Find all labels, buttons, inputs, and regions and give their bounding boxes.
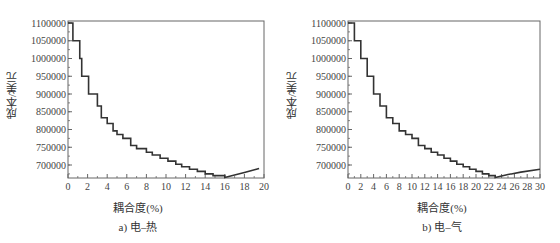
y-tick-label: 1100000 xyxy=(311,18,346,29)
x-tick-label: 0 xyxy=(346,181,351,192)
x-tick-label: 4 xyxy=(371,181,376,192)
y-tick-label: 800000 xyxy=(316,124,346,135)
x-tick-label: 22 xyxy=(484,181,494,192)
x-tick-label: 20 xyxy=(259,181,269,192)
y-tick-label: 1100000 xyxy=(31,18,66,29)
x-tick-label: 6 xyxy=(124,181,129,192)
x-tick-label: 0 xyxy=(66,181,71,192)
x-tick-label: 8 xyxy=(397,181,402,192)
y-tick-label: 700000 xyxy=(316,160,346,171)
cost-step-line xyxy=(348,23,540,177)
x-tick-label: 2 xyxy=(85,181,90,192)
y-tick-label: 800000 xyxy=(36,124,66,135)
cost-step-line xyxy=(68,23,259,177)
y-tick-label: 1000000 xyxy=(311,53,346,64)
x-tick-label: 16 xyxy=(220,181,230,192)
x-tick-label: 14 xyxy=(433,181,443,192)
y-tick-label: 750000 xyxy=(316,142,346,153)
y-tick-label: 900000 xyxy=(36,89,66,100)
y-tick-label: 950000 xyxy=(36,71,66,82)
x-axis-label: 耦合度(%) xyxy=(332,199,552,215)
x-tick-label: 24 xyxy=(497,181,507,192)
y-tick-label: 750000 xyxy=(36,142,66,153)
y-tick-label: 1000000 xyxy=(31,53,66,64)
x-tick-label: 8 xyxy=(144,181,149,192)
x-tick-label: 12 xyxy=(420,181,430,192)
x-tick-label: 2 xyxy=(358,181,363,192)
x-tick-label: 30 xyxy=(535,181,545,192)
x-tick-label: 18 xyxy=(458,181,468,192)
x-tick-label: 18 xyxy=(239,181,249,192)
chart-panel-electric-heat: 7000007500008000008500009000009500001000… xyxy=(0,0,280,243)
x-tick-label: 10 xyxy=(407,181,417,192)
x-tick-label: 16 xyxy=(445,181,455,192)
x-axis-label: 耦合度(%) xyxy=(28,199,248,215)
y-tick-label: 1050000 xyxy=(31,35,66,46)
x-tick-label: 28 xyxy=(522,181,532,192)
y-tick-label: 950000 xyxy=(316,71,346,82)
y-tick-label: 900000 xyxy=(316,89,346,100)
y-tick-label: 850000 xyxy=(36,106,66,117)
x-tick-label: 20 xyxy=(471,181,481,192)
x-tick-label: 4 xyxy=(105,181,110,192)
x-tick-label: 10 xyxy=(161,181,171,192)
x-tick-label: 12 xyxy=(181,181,191,192)
y-tick-label: 850000 xyxy=(316,106,346,117)
y-axis-label: 成本/美元 xyxy=(4,72,20,119)
chart-caption: b) 电–气 xyxy=(332,218,552,234)
x-tick-label: 6 xyxy=(384,181,389,192)
x-tick-label: 26 xyxy=(509,181,519,192)
x-tick-label: 14 xyxy=(200,181,210,192)
y-axis-label: 成本/美元 xyxy=(284,72,300,119)
chart-caption: a) 电–热 xyxy=(28,218,248,234)
y-tick-label: 1050000 xyxy=(311,35,346,46)
y-tick-label: 700000 xyxy=(36,160,66,171)
chart-panel-electric-gas: 7000007500008000008500009000009500001000… xyxy=(280,0,560,243)
